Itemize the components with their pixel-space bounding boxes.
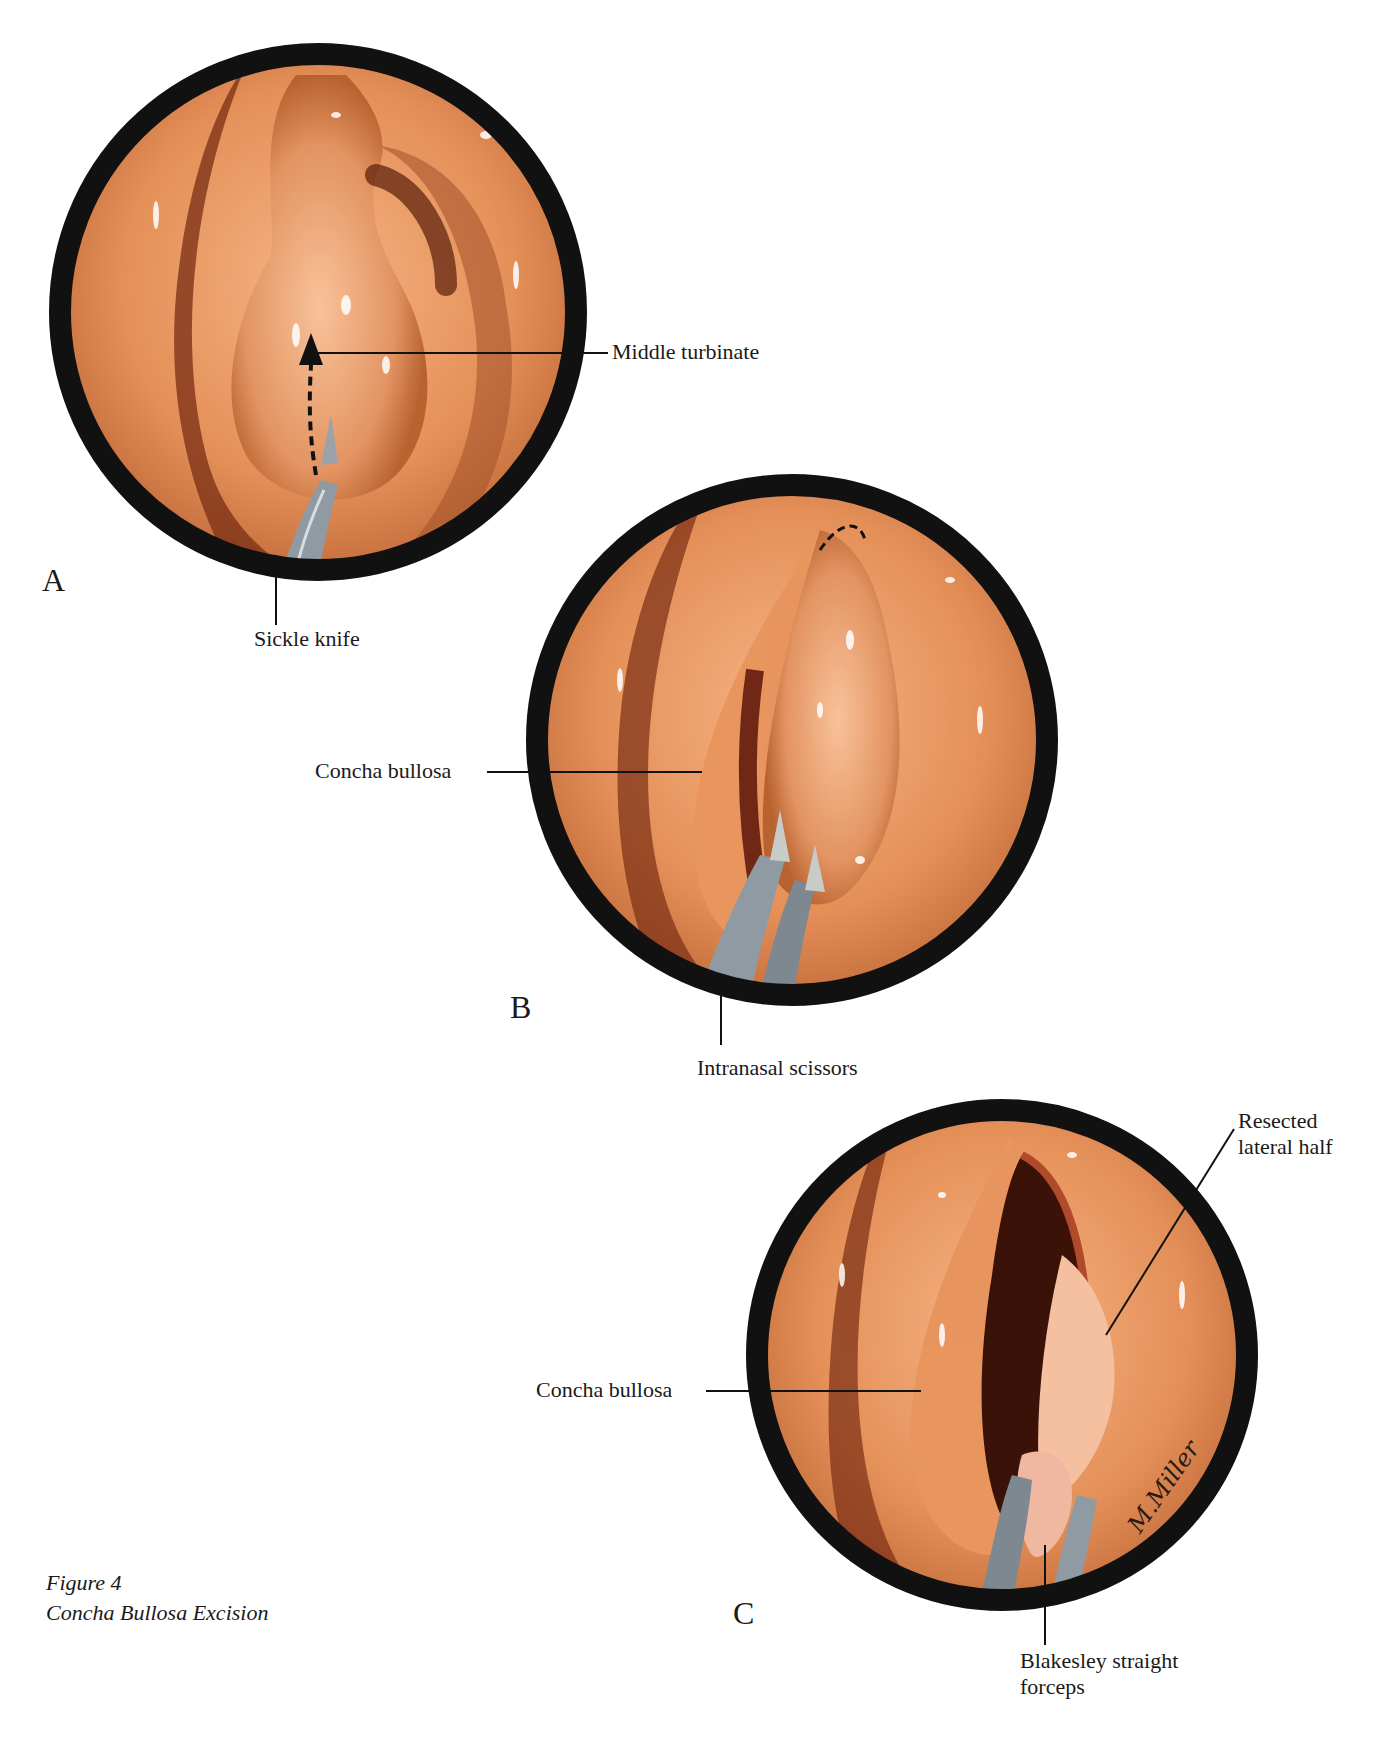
panel-b-endoscopic-view — [520, 460, 1065, 1020]
figure-caption: Figure 4 Concha Bullosa Excision — [46, 1568, 268, 1628]
leader-intranasal-scissors — [720, 975, 722, 1045]
label-middle-turbinate: Middle turbinate — [612, 339, 759, 365]
panel-letter-b: B — [510, 990, 531, 1024]
panel-b-illustration — [520, 460, 1065, 1020]
label-resected-lateral-half: Resected lateral half — [1238, 1108, 1333, 1160]
panel-a-endoscopic-view — [46, 35, 591, 590]
leader-concha-bullosa-c — [706, 1390, 921, 1392]
label-sickle-knife: Sickle knife — [254, 626, 360, 652]
label-concha-bullosa-b: Concha bullosa — [315, 758, 451, 784]
label-blakesley-forceps: Blakesley straight forceps — [1020, 1648, 1178, 1700]
leader-resected-lateral-half — [1100, 1125, 1240, 1345]
leader-sickle-knife — [275, 555, 277, 625]
leader-middle-turbinate — [318, 352, 608, 354]
label-resected-line2: lateral half — [1238, 1134, 1333, 1160]
panel-a-illustration — [46, 35, 591, 590]
label-blakesley-line2: forceps — [1020, 1674, 1178, 1700]
panel-letter-c: C — [733, 1596, 754, 1630]
figure-title: Concha Bullosa Excision — [46, 1598, 268, 1628]
figure-number: Figure 4 — [46, 1568, 268, 1598]
leader-concha-bullosa-b — [487, 771, 702, 773]
leader-blakesley-forceps — [1044, 1545, 1046, 1645]
label-resected-line1: Resected — [1238, 1108, 1333, 1134]
label-concha-bullosa-c: Concha bullosa — [536, 1377, 672, 1403]
panel-letter-a: A — [42, 563, 65, 597]
label-blakesley-line1: Blakesley straight — [1020, 1648, 1178, 1674]
